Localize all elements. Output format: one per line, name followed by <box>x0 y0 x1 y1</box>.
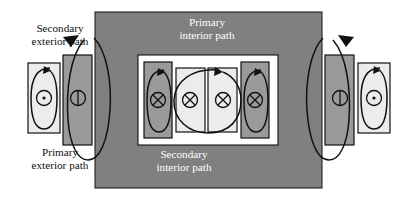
figure-canvas: Secondary exterior path Primary exterior… <box>0 0 404 203</box>
cross-symbol-icon <box>151 93 166 108</box>
label-primary-interior-path: Primary interior path <box>152 16 262 41</box>
cross-symbol-icon <box>216 93 231 108</box>
label-secondary-interior-path: Secondary interior path <box>128 148 240 173</box>
label-primary-exterior-path: Primary exterior path <box>8 146 112 171</box>
cross-symbol-icon <box>248 93 263 108</box>
label-secondary-exterior-path: Secondary exterior path <box>6 22 114 47</box>
cross-symbol-icon <box>183 93 198 108</box>
